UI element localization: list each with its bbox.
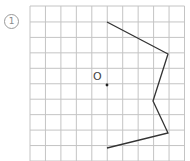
half-figure-polyline	[107, 22, 168, 148]
origin-label: O	[93, 70, 102, 83]
square-grid	[30, 6, 185, 161]
origin-point	[106, 84, 109, 87]
